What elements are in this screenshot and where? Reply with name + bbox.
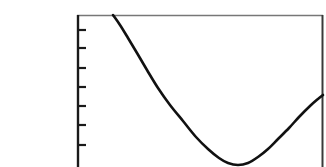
plot-area xyxy=(0,0,326,167)
figure-container: 21.c. s→0⁺ xyxy=(0,0,326,167)
plot-background xyxy=(0,0,326,167)
